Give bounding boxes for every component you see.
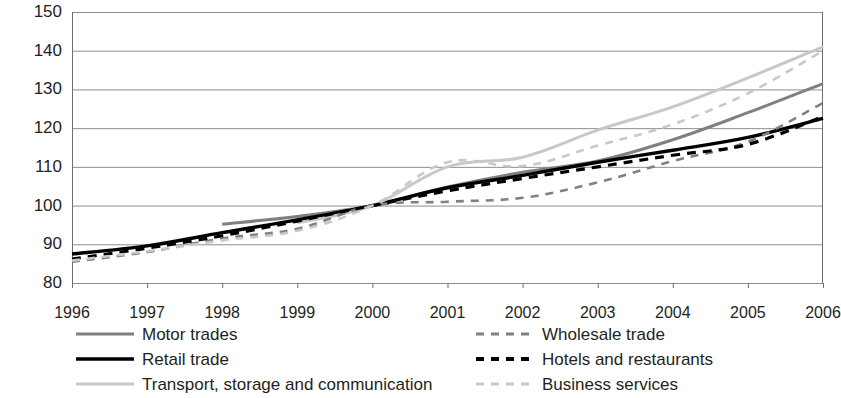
x-tick-label-2003: 2003 bbox=[580, 305, 616, 321]
x-tick-label-1996: 1996 bbox=[54, 305, 90, 321]
legend-item-hotels-and-restaurants[interactable]: Hotels and restaurants bbox=[474, 347, 713, 371]
legend-label: Hotels and restaurants bbox=[542, 350, 713, 369]
legend-item-business-services[interactable]: Business services bbox=[474, 372, 678, 396]
x-tick-label-2006: 2006 bbox=[805, 305, 841, 321]
legend-swatch-solid bbox=[74, 328, 136, 340]
x-tick-label-2005: 2005 bbox=[730, 305, 766, 321]
legend-item-transport-storage-and-communication[interactable]: Transport, storage and communication bbox=[74, 372, 432, 396]
legend-item-retail-trade[interactable]: Retail trade bbox=[74, 347, 229, 371]
x-tick-label-1997: 1997 bbox=[129, 305, 165, 321]
legend-label: Transport, storage and communication bbox=[142, 375, 432, 394]
legend-label: Wholesale trade bbox=[542, 325, 665, 344]
legend-label: Retail trade bbox=[142, 350, 229, 369]
legend-swatch-dashed bbox=[474, 328, 536, 340]
x-tick-label-2001: 2001 bbox=[430, 305, 466, 321]
chart-legend: Motor tradesRetail tradeTransport, stora… bbox=[0, 322, 840, 398]
x-tick-label-2000: 2000 bbox=[355, 305, 391, 321]
x-axis-labels: 1996199719981999200020012002200320042005… bbox=[0, 295, 840, 321]
legend-label: Motor trades bbox=[142, 325, 237, 344]
x-tick-label-2002: 2002 bbox=[505, 305, 541, 321]
legend-swatch-solid bbox=[74, 353, 136, 365]
legend-item-motor-trades[interactable]: Motor trades bbox=[74, 322, 237, 346]
legend-label: Business services bbox=[542, 375, 678, 394]
plot-area: 1501401301201101009080 bbox=[0, 0, 840, 300]
plot-canvas bbox=[0, 0, 840, 300]
legend-swatch-dashed bbox=[474, 353, 536, 365]
x-tick-label-1998: 1998 bbox=[204, 305, 240, 321]
x-tick-label-1999: 1999 bbox=[280, 305, 316, 321]
legend-item-wholesale-trade[interactable]: Wholesale trade bbox=[474, 322, 665, 346]
legend-swatch-dashed bbox=[474, 378, 536, 390]
legend-swatch-solid bbox=[74, 378, 136, 390]
x-tick-label-2004: 2004 bbox=[655, 305, 691, 321]
